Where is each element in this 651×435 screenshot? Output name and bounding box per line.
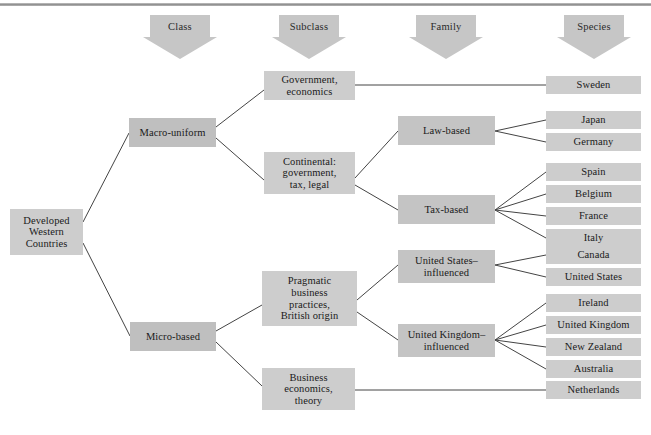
edge-taxbased-belgium xyxy=(495,194,546,210)
node-spain-label: Spain xyxy=(549,166,638,178)
edge-micro-pragmatic xyxy=(216,305,262,331)
edge-lawbased-germany xyxy=(495,131,546,142)
node-germany-label: Germany xyxy=(549,136,638,148)
header-label-subclass: Subclass xyxy=(272,21,346,32)
edge-root-macro xyxy=(83,133,129,222)
header-arrow-subclass: Subclass xyxy=(272,15,346,59)
node-italy-label: Italy xyxy=(549,232,638,244)
node-france-label: France xyxy=(549,210,638,222)
node-root[interactable]: DevelopedWesternCountries xyxy=(10,209,83,255)
diagram-canvas: Class Subclass Family Species DevelopedW… xyxy=(0,0,651,435)
edge-taxbased-france xyxy=(495,210,546,216)
node-root-label: DevelopedWesternCountries xyxy=(13,215,80,250)
node-macro-uniform-label: Macro-uniform xyxy=(132,127,213,139)
header-arrow-family: Family xyxy=(409,15,483,59)
node-italy[interactable]: Italy xyxy=(546,229,641,247)
node-netherlands[interactable]: Netherlands xyxy=(546,381,641,399)
edge-root-micro xyxy=(83,243,130,336)
edge-taxbased-italy xyxy=(495,210,546,238)
node-sweden-label: Sweden xyxy=(549,79,638,91)
node-pragmatic-label: Pragmaticbusinesspractices,British origi… xyxy=(265,275,354,321)
node-spain[interactable]: Spain xyxy=(546,163,641,181)
node-micro-based-label: Micro-based xyxy=(133,331,213,343)
node-government-economics[interactable]: Government,economics xyxy=(264,71,355,100)
node-tax-based-label: Tax-based xyxy=(401,204,492,216)
edge-ukinfl-australia xyxy=(495,340,546,369)
top-rule xyxy=(0,3,651,6)
node-france[interactable]: France xyxy=(546,207,641,225)
edge-micro-busecon xyxy=(216,342,262,386)
edge-taxbased-spain xyxy=(495,172,546,210)
header-label-class: Class xyxy=(143,21,217,32)
header-arrow-class: Class xyxy=(143,15,217,59)
node-law-based[interactable]: Law-based xyxy=(398,116,495,145)
node-belgium[interactable]: Belgium xyxy=(546,185,641,203)
node-germany[interactable]: Germany xyxy=(546,133,641,151)
node-continental[interactable]: Continental:government,tax, legal xyxy=(264,152,355,194)
node-us-influenced[interactable]: United States–influenced xyxy=(398,250,495,283)
node-netherlands-label: Netherlands xyxy=(549,384,638,396)
node-united-states-label: United States xyxy=(549,271,638,283)
node-uk-influenced[interactable]: United Kingdom–influenced xyxy=(398,324,495,357)
edge-pragmatic-usinfl xyxy=(357,265,398,300)
edge-lawbased-japan xyxy=(495,120,546,131)
edge-usinfl-canada xyxy=(495,255,546,265)
node-new-zealand[interactable]: New Zealand xyxy=(546,338,641,356)
edge-macro-continental xyxy=(216,138,264,180)
node-belgium-label: Belgium xyxy=(549,188,638,200)
node-new-zealand-label: New Zealand xyxy=(549,341,638,353)
node-us-influenced-label: United States–influenced xyxy=(401,255,492,278)
edge-continental-taxbased xyxy=(355,185,398,210)
node-ireland[interactable]: Ireland xyxy=(546,294,641,312)
edge-continental-lawbased xyxy=(355,131,398,178)
node-australia-label: Australia xyxy=(549,363,638,375)
node-tax-based[interactable]: Tax-based xyxy=(398,195,495,224)
node-sweden[interactable]: Sweden xyxy=(546,76,641,94)
node-canada[interactable]: Canada xyxy=(546,246,641,264)
node-continental-label: Continental:government,tax, legal xyxy=(267,156,352,191)
node-micro-based[interactable]: Micro-based xyxy=(130,322,216,351)
node-pragmatic[interactable]: Pragmaticbusinesspractices,British origi… xyxy=(262,271,357,326)
node-japan-label: Japan xyxy=(549,114,638,126)
node-australia[interactable]: Australia xyxy=(546,360,641,378)
edge-pragmatic-ukinfl xyxy=(357,312,398,340)
header-label-family: Family xyxy=(409,21,483,32)
node-ireland-label: Ireland xyxy=(549,297,638,309)
header-arrow-species: Species xyxy=(557,15,631,59)
edge-usinfl-unitedstates xyxy=(495,265,546,277)
node-macro-uniform[interactable]: Macro-uniform xyxy=(129,118,216,147)
edge-ukinfl-newzealand xyxy=(495,340,546,347)
node-law-based-label: Law-based xyxy=(401,125,492,137)
node-canada-label: Canada xyxy=(549,249,638,261)
node-uk-influenced-label: United Kingdom–influenced xyxy=(401,329,492,352)
header-label-species: Species xyxy=(557,21,631,32)
node-government-economics-label: Government,economics xyxy=(267,74,352,97)
node-business-economics-label: Businesseconomics,theory xyxy=(265,372,352,407)
edge-ukinfl-ireland xyxy=(495,303,546,340)
node-united-kingdom[interactable]: United Kingdom xyxy=(546,316,641,334)
node-united-states[interactable]: United States xyxy=(546,268,641,286)
edge-ukinfl-unitedkingdom xyxy=(495,325,546,340)
edge-macro-govecon xyxy=(216,90,264,127)
node-united-kingdom-label: United Kingdom xyxy=(549,319,638,331)
node-business-economics[interactable]: Businesseconomics,theory xyxy=(262,368,355,410)
node-japan[interactable]: Japan xyxy=(546,111,641,129)
